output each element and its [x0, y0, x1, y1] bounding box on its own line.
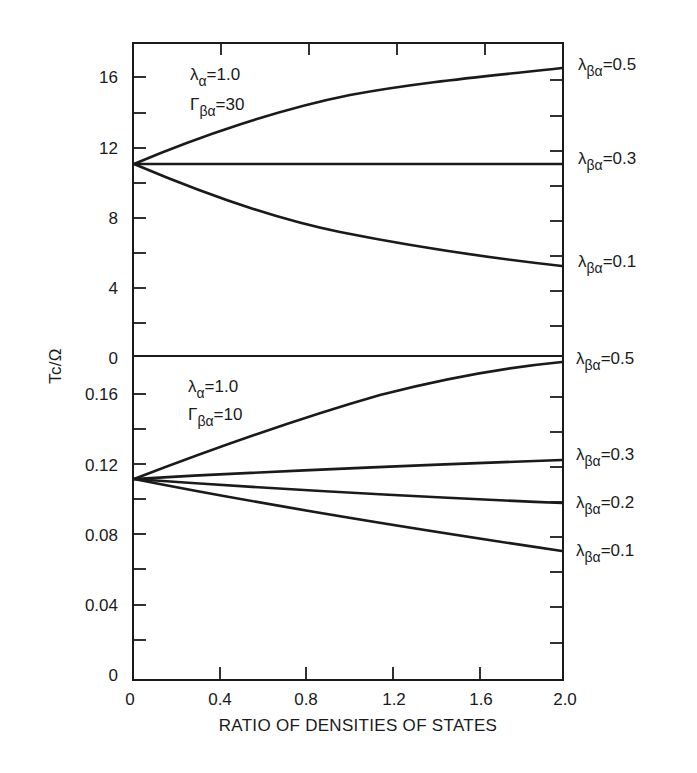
svg-text:0: 0	[109, 666, 118, 685]
svg-text:16: 16	[99, 68, 118, 87]
upper-y-tick-labels: 16 12 8 4 0	[99, 68, 118, 368]
top-ticks	[221, 43, 485, 55]
svg-text:12: 12	[99, 139, 118, 158]
lower-left-ticks	[133, 394, 146, 640]
svg-text:Γβα=10: Γβα=10	[188, 405, 242, 429]
legend-lower-0.2: λβα=0.2	[576, 493, 634, 517]
svg-text:λα=1.0: λα=1.0	[190, 65, 240, 89]
chart-canvas: 16 12 8 4 0 0.16 0.12 0.08 0.04 0 0 0.4 …	[0, 0, 697, 773]
svg-text:Γβα=30: Γβα=30	[190, 95, 244, 119]
x-tick-labels: 0 0.4 0.8 1.2 1.6 2.0	[125, 690, 577, 709]
svg-text:4: 4	[109, 279, 118, 298]
lower-parameter-annotation: λα=1.0 Γβα=10	[188, 377, 242, 429]
svg-text:8: 8	[109, 209, 118, 228]
upper-right-ticks	[550, 80, 563, 326]
upper-series-labels: λβα=0.5 λβα=0.3 λβα=0.1	[578, 55, 636, 276]
svg-text:2.0: 2.0	[553, 690, 577, 709]
upper-parameter-annotation: λα=1.0 Γβα=30	[190, 65, 244, 119]
upper-curve-lambda-0.1	[134, 164, 562, 266]
lower-right-ticks	[550, 397, 563, 643]
lower-curve-lambda-0.3	[134, 460, 562, 479]
legend-lower-0.3: λβα=0.3	[576, 445, 634, 469]
legend-lower-0.1: λβα=0.1	[576, 541, 634, 565]
legend-upper-0.3: λβα=0.3	[578, 149, 636, 173]
upper-left-ticks	[133, 77, 146, 323]
svg-text:0.08: 0.08	[85, 526, 118, 545]
svg-text:0.8: 0.8	[294, 690, 318, 709]
svg-text:0: 0	[125, 690, 134, 709]
lower-series-labels: λβα=0.5 λβα=0.3 λβα=0.2 λβα=0.1	[576, 349, 634, 565]
svg-text:1.6: 1.6	[469, 690, 493, 709]
lower-curve-lambda-0.1	[134, 479, 562, 551]
bottom-ticks	[220, 667, 480, 680]
x-axis-title: RATIO OF DENSITIES OF STATES	[219, 716, 498, 735]
legend-lower-0.5: λβα=0.5	[576, 349, 634, 373]
svg-text:0: 0	[109, 349, 118, 368]
y-axis-title: Tc/Ω	[46, 348, 65, 384]
svg-text:λα=1.0: λα=1.0	[188, 377, 238, 401]
svg-text:0.4: 0.4	[208, 690, 232, 709]
svg-text:1.2: 1.2	[382, 690, 406, 709]
lower-y-tick-labels: 0.16 0.12 0.08 0.04 0	[85, 385, 118, 685]
svg-text:0.16: 0.16	[85, 385, 118, 404]
legend-upper-0.1: λβα=0.1	[578, 252, 636, 276]
svg-text:0.12: 0.12	[85, 456, 118, 475]
legend-upper-0.5: λβα=0.5	[578, 55, 636, 79]
svg-text:0.04: 0.04	[85, 596, 118, 615]
